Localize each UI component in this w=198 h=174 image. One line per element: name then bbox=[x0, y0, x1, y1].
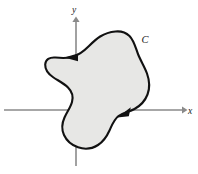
x-axis-arrow-icon bbox=[182, 106, 188, 113]
figure-container: x y C bbox=[0, 0, 198, 174]
vector-field-curve-diagram: x y C bbox=[0, 0, 198, 174]
closed-curve-region bbox=[45, 31, 149, 148]
x-axis-label: x bbox=[187, 106, 193, 116]
y-axis-label: y bbox=[71, 5, 77, 15]
curve-label-c: C bbox=[141, 34, 149, 45]
y-axis-arrow-icon bbox=[72, 17, 79, 23]
